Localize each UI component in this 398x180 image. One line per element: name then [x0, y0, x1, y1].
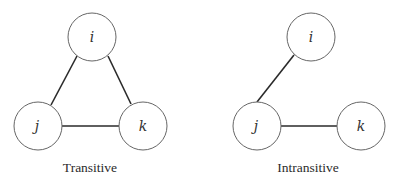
caption-intransitive: Intransitive: [277, 160, 338, 175]
intransitive-diagram: i j k Intransitive: [233, 13, 385, 175]
node-i: i: [68, 13, 116, 61]
svg-text:i: i: [309, 29, 313, 45]
svg-text:k: k: [357, 118, 365, 134]
edge-i-k: [108, 56, 131, 104]
edge-i-j: [257, 55, 294, 102]
caption-transitive: Transitive: [63, 160, 117, 175]
svg-text:k: k: [139, 118, 147, 134]
node-k: k: [337, 102, 385, 150]
transitive-diagram: i j k Transitive: [14, 13, 167, 175]
node-j: j: [14, 102, 62, 150]
node-i: i: [287, 13, 335, 61]
svg-text:i: i: [90, 29, 94, 45]
graph-canvas: i j k Transitive i j k Intransitive: [0, 0, 398, 180]
edge-i-j: [51, 56, 77, 105]
node-k: k: [119, 102, 167, 150]
node-j: j: [233, 102, 281, 150]
